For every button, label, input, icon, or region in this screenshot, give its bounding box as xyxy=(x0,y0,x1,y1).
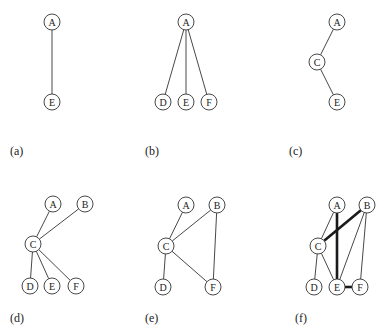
panel-label: (d) xyxy=(10,311,24,325)
node-e: E xyxy=(44,94,60,110)
node-e: E xyxy=(44,278,60,294)
node-d: D xyxy=(155,279,171,295)
node-a: A xyxy=(44,14,60,30)
edge-a-c xyxy=(321,29,334,55)
node-a: A xyxy=(329,197,345,213)
node-f: F xyxy=(68,278,84,294)
panel-e: ABCDF(e) xyxy=(145,197,225,325)
node-d: D xyxy=(306,279,322,295)
edge-b-e xyxy=(340,213,365,280)
node-b: B xyxy=(359,197,375,213)
edge-b-c xyxy=(39,209,78,239)
edge-b-f xyxy=(213,213,216,279)
node-label: D xyxy=(159,97,166,108)
node-c: C xyxy=(158,238,174,254)
edge-a-f xyxy=(188,30,207,95)
edge-c-d xyxy=(164,254,166,279)
panel-a: AE(a) xyxy=(10,14,60,158)
node-d: D xyxy=(155,94,171,110)
node-a: A xyxy=(178,197,194,213)
panel-label: (c) xyxy=(289,144,302,158)
edge-c-d xyxy=(315,254,317,279)
edge-c-f xyxy=(172,251,207,281)
node-label: E xyxy=(334,97,340,108)
panel-f: ABCDEF(f) xyxy=(295,197,375,325)
edge-b-c xyxy=(172,210,211,241)
edge-c-e xyxy=(321,253,333,279)
node-label: E xyxy=(334,282,340,293)
node-label: A xyxy=(48,17,56,28)
node-label: C xyxy=(30,239,37,250)
edge-c-e xyxy=(321,69,334,95)
edge-c-f xyxy=(39,250,71,281)
node-label: D xyxy=(310,282,317,293)
node-f: F xyxy=(205,279,221,295)
node-label: A xyxy=(333,17,341,28)
panel-c: ACE(c) xyxy=(289,14,345,158)
panel-b: ADEF(b) xyxy=(145,14,217,158)
node-f: F xyxy=(352,279,368,295)
node-label: C xyxy=(163,241,170,252)
panel-label: (b) xyxy=(145,144,159,158)
panel-label: (e) xyxy=(145,311,158,325)
node-label: F xyxy=(357,282,363,293)
node-a: A xyxy=(178,14,194,30)
node-c: C xyxy=(309,54,325,70)
node-label: A xyxy=(49,199,57,210)
node-label: A xyxy=(182,17,190,28)
node-e: E xyxy=(329,279,345,295)
node-c: C xyxy=(310,238,326,254)
edge-c-d xyxy=(31,252,33,278)
node-e: E xyxy=(329,94,345,110)
node-f: F xyxy=(201,94,217,110)
panel-label: (a) xyxy=(10,144,23,158)
node-label: E xyxy=(49,281,55,292)
edge-a-d xyxy=(165,30,184,95)
node-d: D xyxy=(22,278,38,294)
node-label: F xyxy=(73,281,79,292)
node-label: D xyxy=(26,281,33,292)
node-label: A xyxy=(333,200,341,211)
node-label: C xyxy=(314,57,321,68)
node-a: A xyxy=(329,14,345,30)
node-e: E xyxy=(178,94,194,110)
node-label: B xyxy=(82,199,89,210)
node-label: C xyxy=(315,241,322,252)
graph-figure: AE(a)ADEF(b)ACE(c)ABCDEF(d)ABCDF(e)ABCDE… xyxy=(0,0,388,333)
node-a: A xyxy=(45,196,61,212)
node-b: B xyxy=(209,197,225,213)
node-label: E xyxy=(183,97,189,108)
node-label: F xyxy=(206,97,212,108)
node-b: B xyxy=(77,196,93,212)
edge-b-f xyxy=(361,213,367,279)
node-label: D xyxy=(159,282,166,293)
node-label: E xyxy=(49,97,55,108)
node-label: B xyxy=(214,200,221,211)
edge-c-e xyxy=(36,251,48,278)
node-c: C xyxy=(25,236,41,252)
node-label: B xyxy=(364,200,371,211)
panel-label: (f) xyxy=(295,311,307,325)
node-label: A xyxy=(182,200,190,211)
panel-d: ABCDEF(d) xyxy=(10,196,93,325)
node-label: F xyxy=(210,282,216,293)
